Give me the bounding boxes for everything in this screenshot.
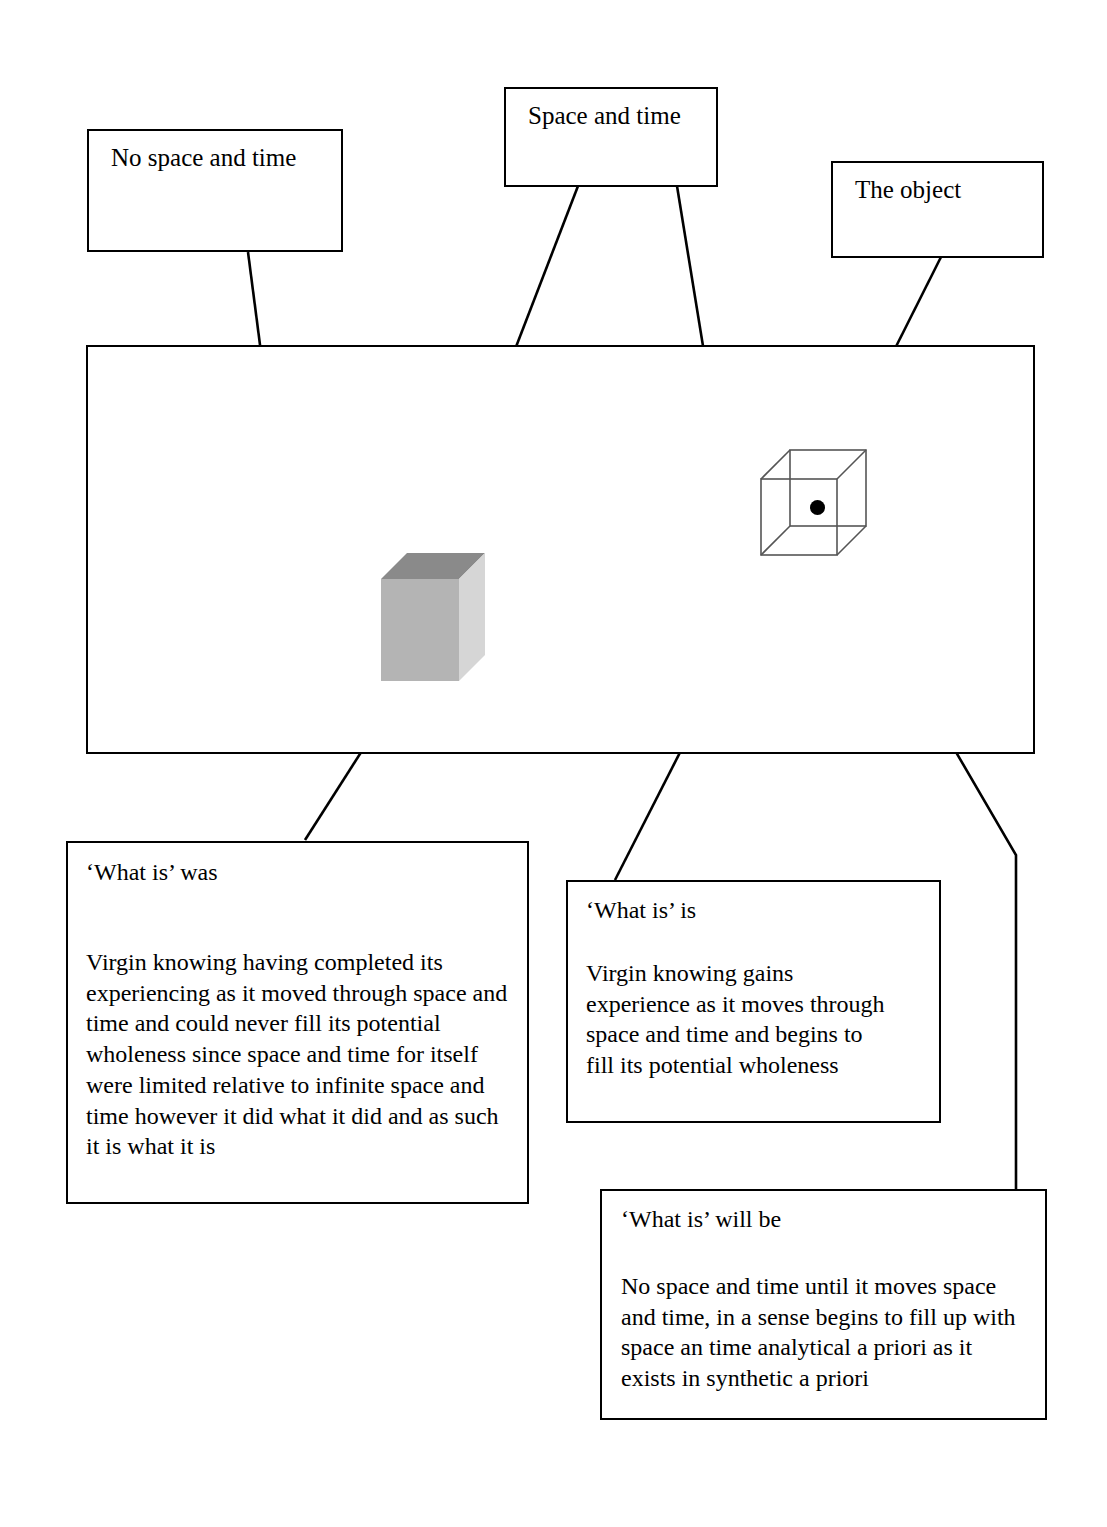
wire-cube-edge-bl <box>761 526 790 555</box>
diagram-canvas: No space and time Space and time The obj… <box>0 0 1107 1527</box>
wire-cube-edge-br <box>837 526 866 555</box>
note-heading-what-is-is: ‘What is’ is <box>586 897 696 924</box>
note-box-what-is-was[interactable]: ‘What is’ was Virgin knowing having comp… <box>66 841 529 1204</box>
note-body-what-is-will-be: No space and time until it moves space a… <box>621 1271 1023 1394</box>
note-body-what-is-was: Virgin knowing having completed its expe… <box>86 947 516 1162</box>
label-box-the-object[interactable]: The object <box>831 161 1044 258</box>
note-box-what-is-is[interactable]: ‘What is’ is Virgin knowing gains experi… <box>566 880 941 1123</box>
label-box-no-space-and-time[interactable]: No space and time <box>87 129 343 252</box>
cube-front-face <box>381 579 459 681</box>
note-box-what-is-will-be[interactable]: ‘What is’ will be No space and time unti… <box>600 1189 1047 1420</box>
wire-cube-edge-tl <box>761 450 790 479</box>
center-point-dot <box>810 500 825 515</box>
solid-gray-cube <box>381 553 485 681</box>
note-heading-what-is-was: ‘What is’ was <box>86 859 218 886</box>
label-box-space-and-time[interactable]: Space and time <box>504 87 718 187</box>
note-body-what-is-is: Virgin knowing gains experience as it mo… <box>586 958 891 1081</box>
wire-cube-edge-tr <box>837 450 866 479</box>
space-and-time-field-rectangle <box>86 345 1035 754</box>
label-space-and-time: Space and time <box>528 101 681 131</box>
note-heading-what-is-will-be: ‘What is’ will be <box>621 1206 781 1233</box>
label-no-space-and-time: No space and time <box>111 143 296 173</box>
label-the-object: The object <box>855 175 961 205</box>
